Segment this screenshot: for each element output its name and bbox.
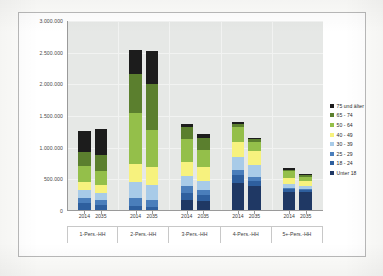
bar-stack[interactable] (181, 124, 194, 211)
bar-segment[interactable] (78, 182, 91, 190)
y-axis-tick-label: 2.500.000 (39, 50, 63, 56)
bar-segment[interactable] (78, 152, 91, 166)
bar-segment[interactable] (248, 151, 261, 166)
chart-legend: 75 und älter65 - 7450 - 6440 - 4930 - 39… (330, 101, 382, 178)
bar-segment[interactable] (197, 181, 210, 190)
y-axis-tick-label: 2.000.000 (39, 81, 63, 87)
category-cell: 5+-Pers.-HH (272, 227, 323, 243)
legend-item[interactable]: 50 - 64 (330, 120, 382, 130)
bar-segment[interactable] (146, 167, 159, 185)
bar-stack[interactable] (299, 174, 312, 211)
bar-segment[interactable] (78, 166, 91, 182)
bar-stack[interactable] (248, 138, 261, 211)
bar-stack[interactable] (129, 50, 142, 211)
gridline (67, 116, 323, 117)
bar-stack[interactable] (232, 122, 245, 211)
group-separator-gridline (272, 21, 273, 211)
bar-segment[interactable] (129, 113, 142, 164)
y-axis-tick-label: 500.000 (44, 176, 63, 182)
legend-color-swatch (330, 123, 334, 127)
bar-segment[interactable] (181, 139, 194, 161)
x-axis-category-labels: 1-Pers.-HH2-Pers.-HH3-Pers.-HH4-Pers.-HH… (67, 226, 323, 243)
category-cell: 4-Pers.-HH (221, 227, 272, 243)
bar-segment[interactable] (95, 129, 108, 155)
legend-color-swatch (330, 161, 334, 165)
bar-segment[interactable] (181, 176, 194, 186)
bar-segment[interactable] (197, 138, 210, 150)
gridline (67, 53, 323, 54)
legend-label: Unter 18 (337, 170, 357, 176)
legend-label: 75 und älter (337, 103, 365, 109)
bar-segment[interactable] (232, 142, 245, 157)
bar-segment[interactable] (197, 167, 210, 181)
bar-segment[interactable] (181, 193, 194, 200)
bar-stack[interactable] (283, 168, 296, 211)
gridline (67, 21, 323, 22)
y-axis-tick-label: 0 (60, 208, 63, 214)
bar-stack[interactable] (146, 51, 159, 211)
bar-segment[interactable] (129, 74, 142, 113)
x-axis-year-label: 2035 (198, 213, 209, 219)
legend-item[interactable]: 30 - 39 (330, 139, 382, 149)
category-cell: 1-Pers.-HH (67, 227, 118, 243)
bar-segment[interactable] (95, 155, 108, 171)
bar-segment[interactable] (197, 150, 210, 168)
bar-segment[interactable] (129, 182, 142, 198)
bar-stack[interactable] (197, 134, 210, 211)
y-axis-tick-label: 1.000.000 (39, 145, 63, 151)
legend-item[interactable]: 25 - 29 (330, 149, 382, 159)
bar-segment[interactable] (129, 164, 142, 182)
bar-segment[interactable] (232, 183, 245, 212)
x-axis-year-label: 2014 (181, 213, 192, 219)
bar-segment[interactable] (299, 192, 312, 211)
legend-item[interactable]: Unter 18 (330, 168, 382, 178)
bar-segment[interactable] (232, 175, 245, 182)
bar-segment[interactable] (248, 186, 261, 211)
x-axis-year-labels: 2014203520142035201420352014203520142035 (67, 211, 323, 225)
category-label: 2-Pers.-HH (130, 231, 156, 237)
legend-label: 30 - 39 (337, 141, 353, 147)
bar-segment[interactable] (181, 127, 194, 139)
x-axis-year-label: 2035 (300, 213, 311, 219)
bar-segment[interactable] (146, 130, 159, 167)
y-axis-tick-label: 1.500.000 (39, 113, 63, 119)
legend-label: 65 - 74 (337, 112, 353, 118)
bar-segment[interactable] (248, 142, 261, 151)
category-label: 1-Pers.-HH (80, 231, 106, 237)
bar-segment[interactable] (78, 131, 91, 152)
legend-item[interactable]: 18 - 24 (330, 159, 382, 169)
bar-segment[interactable] (232, 127, 245, 142)
legend-item[interactable]: 75 und älter (330, 101, 382, 111)
x-axis-year-label: 2014 (130, 213, 141, 219)
category-label: 3-Pers.-HH (182, 231, 208, 237)
legend-item[interactable]: 65 - 74 (330, 111, 382, 121)
bar-segment[interactable] (283, 171, 296, 178)
category-cell: 2-Pers.-HH (118, 227, 169, 243)
bar-segment[interactable] (248, 165, 261, 176)
bar-segment[interactable] (181, 162, 194, 177)
bar-segment[interactable] (181, 186, 194, 193)
bar-segment[interactable] (129, 50, 142, 74)
group-separator-gridline (169, 21, 170, 211)
bar-segment[interactable] (95, 193, 108, 201)
x-axis-year-label: 2035 (146, 213, 157, 219)
legend-color-swatch (330, 142, 334, 146)
bar-segment[interactable] (232, 157, 245, 170)
bar-segment[interactable] (283, 192, 296, 211)
bar-stack[interactable] (78, 131, 91, 211)
legend-item[interactable]: 40 - 49 (330, 130, 382, 140)
bar-stack[interactable] (95, 129, 108, 211)
bar-segment[interactable] (146, 185, 159, 200)
group-separator-gridline (221, 21, 222, 211)
bar-segment[interactable] (146, 84, 159, 130)
bar-segment[interactable] (95, 185, 108, 193)
category-label: 4-Pers.-HH (233, 231, 259, 237)
bar-segment[interactable] (146, 51, 159, 84)
legend-label: 25 - 29 (337, 151, 353, 157)
bar-segment[interactable] (146, 200, 159, 207)
bar-segment[interactable] (129, 198, 142, 206)
bar-segment[interactable] (78, 190, 91, 198)
bar-segment[interactable] (95, 171, 108, 186)
legend-label: 18 - 24 (337, 160, 353, 166)
legend-color-swatch (330, 152, 334, 156)
